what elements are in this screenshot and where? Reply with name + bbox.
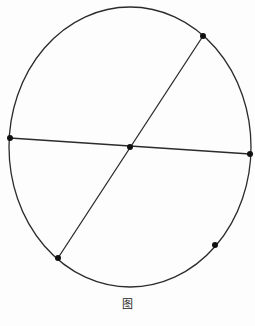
point-bottom-right [212,242,218,248]
circle-diagram [0,0,255,326]
point-right [247,151,253,157]
point-bottom-left [55,255,61,261]
point-center [127,144,133,150]
figure-caption: 图 [0,298,255,312]
point-top-right [200,33,206,39]
point-left [7,135,13,141]
figure-canvas: 图 [0,0,255,326]
